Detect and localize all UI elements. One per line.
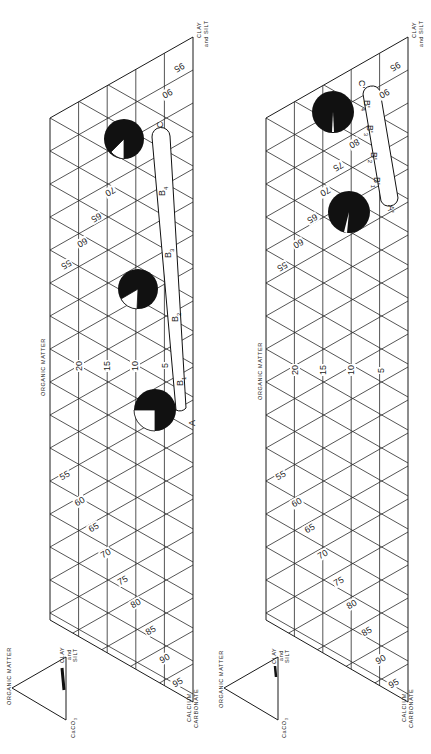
lower-pie-near-C [312,91,354,133]
upper-label-C: C [155,122,165,129]
lower-label-B2-prime: B'2 [367,152,379,163]
lower-tick-20: 20 [290,364,300,376]
upper-inset-silt: SILT [72,648,78,662]
upper-label-B4: B4 [157,187,169,196]
lower-inset-clay: CLAY [271,648,277,664]
lower-inset-caco3: CaCO3 [281,717,289,738]
upper-tick-5: 5 [160,362,170,369]
upper-pie-near-C [104,119,144,159]
lower-inset-triangle [224,657,278,720]
lower-label-C-prime: C' [357,80,367,88]
lower-label-B3-prime: B'3 [363,125,375,136]
lower-label-B1-prime: B'1 [370,177,382,188]
lower-label-A-prime: A' [386,205,396,213]
label-clay: CLAY [196,22,202,38]
lower-vertex-calcium: CALCIUM [401,693,407,722]
upper-label-B1: B1 [175,377,187,386]
lower-inset-title: ORGANIC MATTER [218,650,224,708]
upper-panel [50,0,193,754]
lower-vertex-clay-silt: CLAY [411,22,417,38]
upper-vertex-carbonate: CARBONATE [193,689,199,728]
upper-tick-10: 10 [130,360,140,372]
ternary-figure [0,0,431,754]
upper-label-B2: B2 [170,313,182,322]
lower-vertex-carbonate: CARBONATE [408,689,414,728]
upper-label-A: A [187,420,197,426]
upper-pie-middle [118,269,158,309]
lower-vertex-and-silt: and SILT [418,20,424,47]
upper-inset-triangle [12,657,66,720]
lower-axis-organic-matter: ORGANIC MATTER [257,342,263,400]
upper-label-B3: B3 [163,249,175,258]
label-and-silt: and SILT [203,20,209,47]
lower-tick-15: 15 [318,364,328,376]
lower-pie-near-A [328,191,370,233]
upper-pie-near-A [134,389,176,431]
lower-tick-5: 5 [376,367,386,374]
lower-panel [266,0,408,754]
upper-vertex-and-silt: and SILT [203,20,209,47]
upper-vertex-clay-silt: CLAY [196,22,202,38]
upper-inset-clay: CLAY [59,647,65,663]
lower-label-B4-prime: B'4 [360,100,372,111]
lower-tick-10: 10 [346,364,356,376]
upper-vertex-calcium: CALCIUM [186,693,192,722]
upper-tick-15: 15 [102,360,112,372]
upper-axis-organic-matter: ORGANIC MATTER [40,338,46,396]
upper-inset-title: ORGANIC MATTER [6,647,12,705]
upper-grid [50,0,193,754]
lower-inset-silt: SILT [284,649,290,663]
upper-tick-20: 20 [74,360,84,372]
upper-inset-caco3: CaCO3 [70,717,78,738]
